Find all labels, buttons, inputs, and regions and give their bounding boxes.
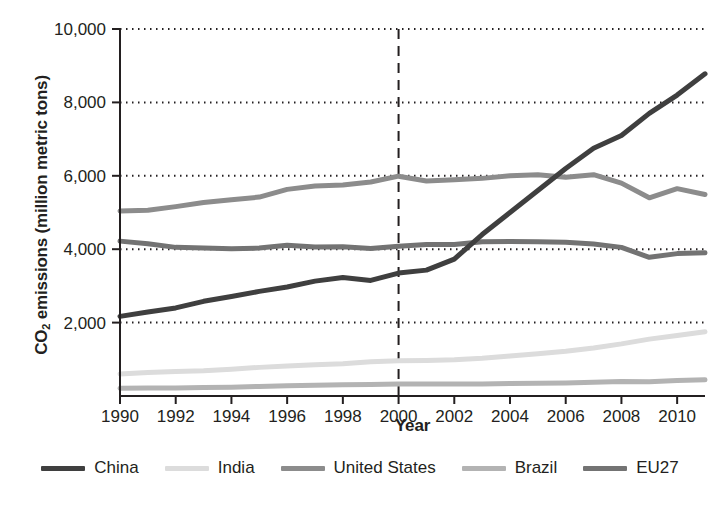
legend-item-eu27[interactable]: EU27 [583, 458, 679, 478]
legend-item-brazil[interactable]: Brazil [462, 458, 558, 478]
series-line-eu27 [120, 241, 705, 257]
chart-legend: ChinaIndiaUnited StatesBrazilEU27 [0, 458, 720, 478]
legend-swatch-icon [165, 466, 209, 471]
series-line-india [120, 332, 705, 374]
legend-swatch-icon [41, 466, 85, 471]
y-axis-ticks-group: 2,0004,0006,0008,00010,000 [54, 20, 120, 333]
y-tick-label: 10,000 [54, 20, 106, 39]
legend-item-china[interactable]: China [41, 458, 138, 478]
legend-swatch-icon [462, 466, 506, 471]
x-axis-title-text: Year [395, 416, 430, 435]
y-axis-title-subscript: 2 [40, 324, 52, 330]
series-line-united-states [120, 175, 705, 211]
series-line-brazil [120, 380, 705, 388]
legend-label: Brazil [515, 458, 558, 478]
y-axis-title-pre: CO [32, 330, 51, 355]
legend-label: India [218, 458, 255, 478]
data-series-group [120, 74, 705, 389]
legend-label: China [94, 458, 138, 478]
y-tick-label: 6,000 [63, 167, 106, 186]
legend-label: United States [334, 458, 436, 478]
x-axis-title: Year [120, 416, 705, 436]
legend-item-united-states[interactable]: United States [281, 458, 436, 478]
series-line-china [120, 74, 705, 317]
legend-swatch-icon [281, 466, 325, 471]
chart-figure: 2,0004,0006,0008,00010,000 1990199219941… [0, 0, 720, 507]
y-tick-label: 4,000 [63, 240, 106, 259]
gridlines-group [120, 29, 705, 323]
legend-item-india[interactable]: India [165, 458, 255, 478]
y-axis-title: CO2 emissions (million metric tons) [32, 5, 52, 425]
legend-swatch-icon [583, 466, 627, 471]
y-axis-title-post: emissions (million metric tons) [32, 75, 51, 324]
y-tick-label: 8,000 [63, 93, 106, 112]
y-tick-label: 2,000 [63, 314, 106, 333]
axis-lines-group [120, 29, 705, 396]
legend-label: EU27 [636, 458, 679, 478]
